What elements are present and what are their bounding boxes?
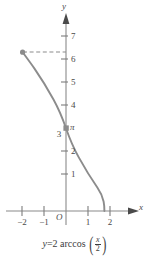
left-endpoint-marker: [20, 50, 25, 55]
caption-fraction-numerator: x: [95, 236, 101, 244]
x-axis-arrowhead: [128, 208, 139, 215]
caption-paren-open: (: [89, 236, 93, 253]
y-tick-label-3: 3: [54, 130, 64, 139]
y-axis-arrowhead: [63, 13, 70, 24]
y-tick-label-pi: π: [70, 123, 75, 132]
caption-function-name: arccos: [60, 238, 86, 249]
y-tick-marks: [61, 36, 68, 174]
x-tick-label-1: 1: [80, 218, 96, 227]
y-tick-label-6: 6: [71, 55, 85, 64]
y-tick-label-1: 1: [71, 170, 85, 179]
figure-caption: y=2 arccos (x2): [0, 236, 150, 254]
caption-fraction: x2: [95, 236, 101, 254]
y-intercept-marker: [63, 125, 68, 130]
x-tick-label-neg2: −2: [14, 218, 30, 227]
y-tick-label-7: 7: [71, 32, 85, 41]
caption-equals-two: =2: [47, 238, 58, 249]
y-axis-label: y: [62, 2, 66, 11]
figure-container: y x 7 6 5 4 2 1 π 3 −2 −1 1 2 O y=2 arcc…: [0, 0, 150, 262]
x-axis-label: x: [139, 203, 143, 212]
y-tick-label-5: 5: [71, 78, 85, 87]
caption-paren-close: ): [102, 236, 106, 253]
y-tick-label-2: 2: [71, 147, 85, 156]
x-tick-label-2: 2: [102, 218, 118, 227]
caption-fraction-denominator: 2: [95, 244, 101, 253]
y-tick-label-4: 4: [71, 101, 85, 110]
origin-label: O: [56, 213, 63, 222]
x-tick-label-neg1: −1: [36, 218, 52, 227]
